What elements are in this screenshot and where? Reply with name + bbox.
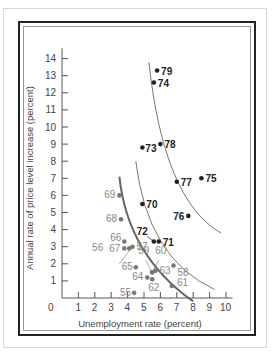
phillips-curve-chart: 0123456789101234567891011121314Unemploym… <box>0 0 272 355</box>
y-tick-label: 8 <box>50 156 56 167</box>
x-axis-label: Unemployment rate (percent) <box>78 318 202 329</box>
point-label-65: 65 <box>122 261 134 272</box>
point-label-76: 76 <box>173 211 185 222</box>
point-label-66: 66 <box>110 232 122 243</box>
y-tick-label: 7 <box>50 173 56 184</box>
point-label-69: 69 <box>104 189 116 200</box>
y-axis-label: Annual rate of price level increase (per… <box>24 86 35 270</box>
x-tick-label: 10 <box>220 302 232 313</box>
y-tick-label: 12 <box>45 87 57 98</box>
data-point-62 <box>150 277 155 282</box>
point-label-71: 71 <box>163 237 175 248</box>
data-point-76 <box>186 214 191 219</box>
data-point-74 <box>152 80 157 85</box>
point-label-70: 70 <box>146 199 158 210</box>
data-point-75 <box>199 176 204 181</box>
y-tick-label: 2 <box>50 258 56 269</box>
point-label-55: 55 <box>120 287 132 298</box>
data-point-72 <box>152 239 157 244</box>
point-label-77: 77 <box>181 177 193 188</box>
data-point-66 <box>122 239 127 244</box>
data-point-65 <box>134 265 139 270</box>
data-point-71 <box>156 239 161 244</box>
y-tick-label: 3 <box>50 241 56 252</box>
data-point-63 <box>153 268 158 273</box>
y-tick-label: 5 <box>50 207 56 218</box>
data-point-78 <box>158 142 163 147</box>
point-label-68: 68 <box>106 213 118 224</box>
point-label-72: 72 <box>137 226 149 237</box>
data-point-67 <box>122 246 127 251</box>
point-label-75: 75 <box>205 173 217 184</box>
point-label-62: 62 <box>148 282 160 293</box>
data-point-70 <box>140 202 145 207</box>
point-label-74: 74 <box>158 78 170 89</box>
y-tick-label: 13 <box>45 70 57 81</box>
x-tick-label: 5 <box>141 302 147 313</box>
data-point-64 <box>145 275 150 280</box>
y-tick-label: 11 <box>46 104 57 115</box>
x-tick-label: 3 <box>108 302 114 313</box>
point-label-79: 79 <box>161 66 173 77</box>
x-tick-label: 9 <box>207 302 213 313</box>
y-tick-label: 1 <box>50 275 56 286</box>
point-label-67: 67 <box>109 243 121 254</box>
x-tick-label: 0 <box>48 302 54 313</box>
x-tick-label: 8 <box>190 302 196 313</box>
data-point-69 <box>117 193 122 198</box>
point-label-78: 78 <box>164 139 176 150</box>
y-tick-label: 9 <box>50 139 56 150</box>
data-point-58 <box>171 263 176 268</box>
point-label-59: 59 <box>138 245 150 256</box>
point-label-63: 63 <box>159 265 171 276</box>
x-tick-label: 7 <box>174 302 180 313</box>
point-label-61: 61 <box>177 277 189 288</box>
x-tick-label: 2 <box>92 302 98 313</box>
data-point-55 <box>132 291 137 296</box>
data-point-61 <box>170 284 175 289</box>
data-point-73 <box>140 145 145 150</box>
y-tick-label: 10 <box>45 122 57 133</box>
data-point-68 <box>119 217 124 222</box>
y-tick-label: 14 <box>45 53 57 64</box>
data-point-57 <box>130 244 135 249</box>
data-point-77 <box>175 179 180 184</box>
point-label-73: 73 <box>145 143 157 154</box>
point-label-58: 58 <box>178 267 190 278</box>
point-label-56: 56 <box>92 242 104 253</box>
x-tick-label: 6 <box>157 302 163 313</box>
y-tick-label: 6 <box>50 190 56 201</box>
data-point-79 <box>155 68 160 73</box>
point-label-64: 64 <box>132 271 144 282</box>
y-tick-label: 4 <box>50 224 56 235</box>
x-tick-label: 4 <box>125 302 131 313</box>
x-tick-label: 1 <box>75 302 81 313</box>
